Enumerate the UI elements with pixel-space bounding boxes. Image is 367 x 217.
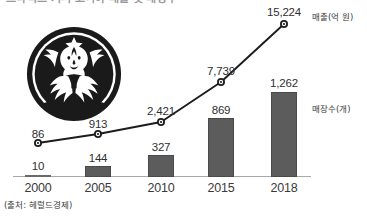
- legend-storecount-label: 매장수(개): [312, 102, 351, 114]
- xtick-2010: 2010: [136, 181, 186, 195]
- bar-2018: [271, 92, 297, 177]
- bar-label-2015: 869: [196, 104, 246, 116]
- plot-area: 10 144 327 869 1,262 86 913: [0, 0, 367, 217]
- xtick-2015: 2015: [196, 181, 246, 195]
- line-label-2000: 86: [13, 128, 63, 140]
- xtick-2000: 2000: [13, 181, 63, 195]
- bar-2005: [85, 166, 111, 177]
- bar-2015: [208, 118, 234, 177]
- line-label-2018: 15,224: [253, 6, 315, 18]
- xtick-2005: 2005: [73, 181, 123, 195]
- xtick-2018: 2018: [259, 181, 309, 195]
- line-label-2010: 2,421: [133, 105, 189, 117]
- line-label-2015: 7,739: [193, 65, 249, 77]
- bar-2010: [148, 155, 174, 177]
- bar-2000: [25, 175, 51, 178]
- line-label-2005: 913: [73, 118, 123, 130]
- bar-label-2000: 10: [13, 160, 63, 172]
- chart-figure: 스타벅스 커피 코리아 매출 및 매장수: [0, 0, 367, 217]
- bar-label-2005: 144: [73, 152, 123, 164]
- source-note: (출처: 헤럴드경제): [4, 198, 72, 210]
- bar-label-2018: 1,262: [259, 77, 309, 89]
- legend-revenue-label: 매출(억 원): [312, 10, 353, 22]
- bar-label-2010: 327: [136, 141, 186, 153]
